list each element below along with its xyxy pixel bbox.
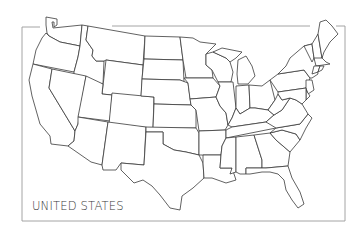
state-mt[interactable] (86, 26, 145, 65)
state-ks[interactable] (153, 104, 196, 128)
map-title-label: UNITED STATES (32, 199, 124, 213)
state-sd[interactable] (142, 59, 184, 82)
state-nd[interactable] (144, 36, 183, 60)
state-me[interactable] (318, 20, 338, 58)
states-group (29, 17, 338, 210)
state-wy[interactable] (102, 60, 143, 98)
state-ma[interactable] (314, 58, 330, 66)
state-ia[interactable] (184, 78, 220, 99)
state-nm[interactable] (102, 122, 146, 170)
state-fl[interactable] (246, 166, 304, 208)
